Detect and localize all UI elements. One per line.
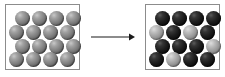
sphere-gray (9, 25, 24, 40)
sphere-dark (206, 11, 221, 26)
transformation-arrow-icon (91, 30, 135, 44)
sphere-gray (32, 11, 47, 26)
sphere-light (149, 25, 164, 40)
sphere-dark (183, 52, 198, 67)
sphere-gray (9, 52, 24, 67)
sphere-gray (66, 11, 81, 26)
sphere-dark (149, 52, 164, 67)
sphere-gray (26, 25, 41, 40)
panel-after (145, 4, 220, 70)
sphere-gray (49, 11, 64, 26)
sphere-lattice-after (146, 5, 219, 69)
sphere-gray (15, 11, 30, 26)
sphere-dark (172, 11, 187, 26)
sphere-light (166, 52, 181, 67)
sphere-dark (155, 11, 170, 26)
sphere-lattice-before (6, 5, 79, 69)
sphere-dark (200, 25, 215, 40)
arrow-head (129, 33, 135, 40)
sphere-dark (200, 52, 215, 67)
panel-before (5, 4, 80, 70)
sphere-gray (26, 52, 41, 67)
sphere-light (183, 25, 198, 40)
sphere-gray (60, 25, 75, 40)
sphere-gray (60, 52, 75, 67)
sphere-dark (189, 11, 204, 26)
sphere-gray (43, 25, 58, 40)
sphere-dark (166, 25, 181, 40)
transformation-diagram (0, 0, 225, 77)
sphere-gray (43, 52, 58, 67)
